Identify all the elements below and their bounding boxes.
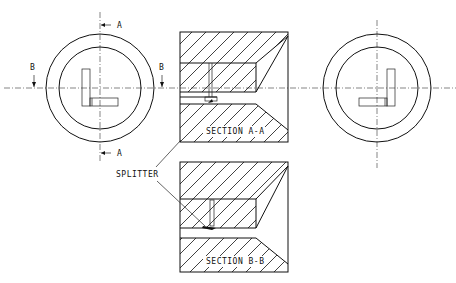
arrow-left-icon (101, 151, 105, 155)
cut-b-left-label: B (30, 63, 35, 72)
cut-a-top-label: A (117, 21, 122, 30)
splitter-horizontal-leg (90, 98, 118, 106)
hatch-top (180, 162, 288, 199)
section-a-a-caption: SECTION A-A (206, 127, 264, 136)
drawing-canvas: A A B B SECTION A-A (0, 0, 456, 283)
section-a-a-view: SECTION A-A (180, 32, 288, 142)
splitter-horizontal-leg (359, 98, 387, 106)
leader-line-aa (156, 140, 181, 167)
hatch-core (180, 63, 256, 92)
splitter-vertical-leg (82, 69, 90, 106)
arrow-down-icon (32, 82, 36, 87)
section-b-b-view: SECTION B-B (180, 162, 288, 272)
splitter-vertical-leg (387, 69, 395, 106)
hatch-top (180, 32, 288, 63)
arrow-left-icon (101, 23, 105, 27)
arrow-down-icon (160, 82, 164, 87)
splitter-label: SPLITTER (116, 170, 159, 179)
right-end-view (323, 20, 431, 168)
cut-a-bottom-label: A (117, 149, 122, 158)
cut-b-right-label: B (159, 63, 164, 72)
section-b-b-caption: SECTION B-B (206, 257, 264, 266)
left-end-view: A A B B (30, 12, 164, 162)
